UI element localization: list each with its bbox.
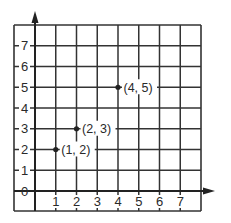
y-tick-label: 3 — [21, 121, 28, 136]
x-tick-label: 5 — [135, 194, 142, 209]
point-label: (2, 3) — [82, 122, 111, 136]
point-marker-icon — [115, 85, 120, 90]
x-tick-label: 2 — [73, 194, 80, 209]
x-tick-label: 4 — [114, 194, 121, 209]
y-tick-label: 7 — [21, 38, 28, 53]
y-tick-label: 5 — [21, 80, 28, 95]
y-tick-label: 1 — [21, 163, 28, 178]
point-label: (1, 2) — [61, 143, 90, 157]
x-tick-labels: 1234567 — [52, 194, 184, 209]
coordinate-plane: 01234567 1234567 (1, 2)(2, 3)(4, 5) — [0, 0, 231, 223]
data-points: (1, 2)(2, 3)(4, 5) — [53, 79, 157, 157]
y-axis-arrow-icon — [32, 11, 39, 23]
x-tick-label: 1 — [52, 194, 59, 209]
point-marker-icon — [74, 126, 79, 131]
y-tick-label: 6 — [21, 59, 28, 74]
point-label: (4, 5) — [124, 81, 153, 95]
axes — [14, 11, 215, 211]
y-tick-labels: 01234567 — [21, 38, 28, 198]
point-marker-icon — [53, 147, 58, 152]
x-tick-label: 6 — [156, 194, 163, 209]
x-tick-label: 3 — [94, 194, 101, 209]
x-axis-arrow-icon — [203, 188, 215, 195]
grid-lines — [14, 25, 201, 211]
x-tick-label: 7 — [177, 194, 184, 209]
y-tick-label: 4 — [21, 101, 28, 116]
grid-frame — [14, 25, 201, 211]
y-tick-label: 2 — [21, 142, 28, 157]
y-tick-label: 0 — [21, 184, 28, 199]
